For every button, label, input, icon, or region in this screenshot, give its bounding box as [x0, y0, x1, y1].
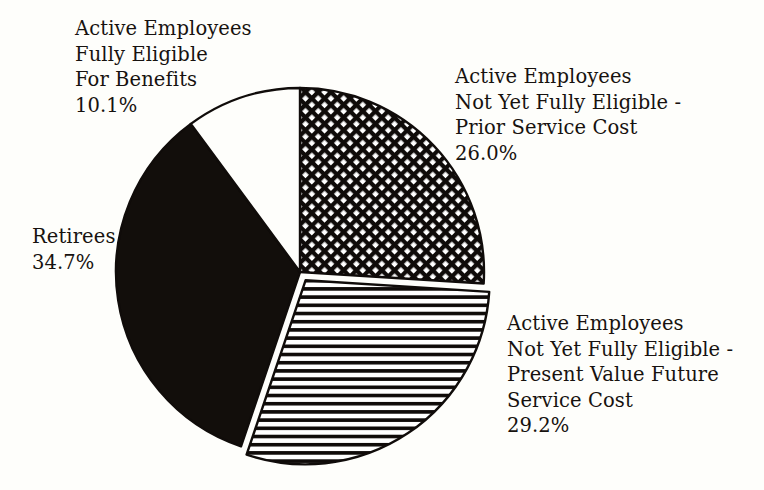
slice-label-prior-service-cost: Active Employees Not Yet Fully Eligible …: [455, 64, 681, 166]
slice-label-fully-eligible: Active Employees Fully Eligible For Bene…: [75, 16, 252, 118]
label-line: Fully Eligible: [75, 43, 208, 66]
label-percent: 26.0%: [455, 141, 681, 167]
label-line: Prior Service Cost: [455, 116, 637, 139]
label-line: Service Cost: [507, 389, 633, 412]
label-percent: 34.7%: [32, 250, 116, 276]
label-line: Not Yet Fully Eligible -: [455, 91, 681, 114]
label-line: Active Employees: [75, 17, 252, 40]
slice-label-present-value-future-service-cost: Active Employees Not Yet Fully Eligible …: [507, 311, 733, 439]
label-line: Active Employees: [507, 312, 684, 335]
label-line: Not Yet Fully Eligible -: [507, 338, 733, 361]
label-line: Retirees: [32, 225, 116, 248]
pie-chart-page: Active Employees Fully Eligible For Bene…: [0, 0, 764, 490]
label-line: Present Value Future: [507, 363, 719, 386]
label-line: Active Employees: [455, 65, 632, 88]
label-percent: 10.1%: [75, 93, 252, 119]
label-percent: 29.2%: [507, 413, 733, 439]
slice-label-retirees: Retirees 34.7%: [32, 224, 116, 275]
label-line: For Benefits: [75, 68, 197, 91]
